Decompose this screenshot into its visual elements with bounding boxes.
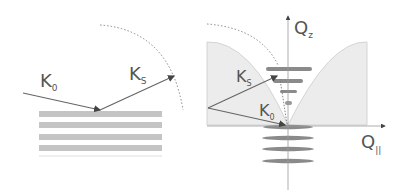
ks-label-left: KS xyxy=(129,63,147,86)
multilayer-sample xyxy=(39,111,162,156)
ewald-arc-left xyxy=(100,25,183,110)
incident-beam xyxy=(23,93,100,110)
scattering-diagram: K0 KS Qz Q|| KS K0 xyxy=(0,0,404,194)
qpar-label: Q|| xyxy=(361,131,381,155)
k0-label-left: K0 xyxy=(40,70,58,93)
forbidden-region-right xyxy=(288,42,367,125)
qz-label: Qz xyxy=(294,17,313,40)
